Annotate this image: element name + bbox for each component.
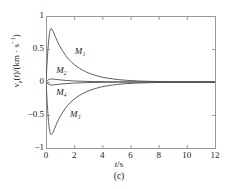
curve-label-m3: M₃ (70, 110, 81, 119)
curve-label-m2: M₂ (56, 66, 67, 75)
curve-label-m1: M₁ (75, 47, 86, 56)
curve-label-m4: M₄ (56, 88, 67, 97)
x-tick-label-4: 8 (147, 151, 171, 160)
figure-caption: (c) (0, 172, 238, 182)
x-tick-label-5: 10 (175, 151, 199, 160)
x-tick-label-6: 12 (203, 151, 227, 160)
x-tick-label-0: 0 (34, 151, 58, 160)
x-axis-label: t/s (0, 160, 238, 169)
x-tick-label-2: 4 (90, 151, 114, 160)
figure-container: vz(t)/(km · s−1) −1−0.500.51 024681012 M… (0, 0, 238, 189)
x-tick-label-1: 2 (62, 151, 86, 160)
